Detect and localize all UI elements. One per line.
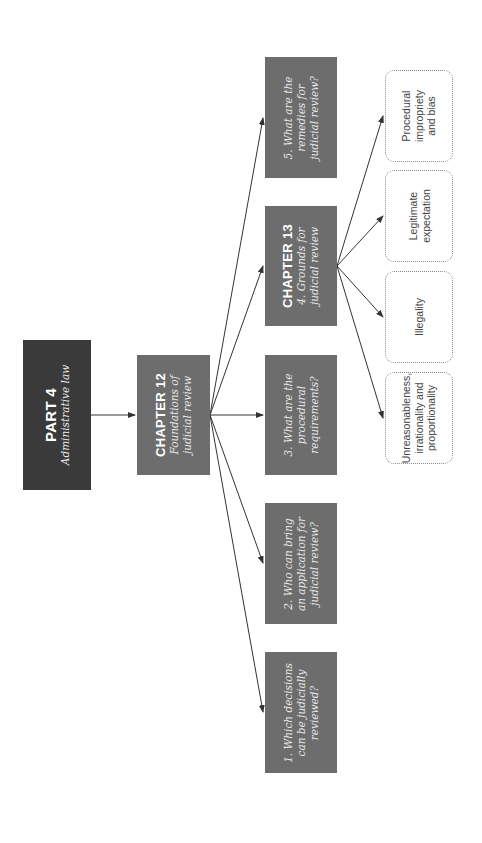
question-5-box: 5. What are the remedies for judicial re… bbox=[265, 57, 337, 178]
ground-line: irrationality and bbox=[413, 372, 426, 464]
chapter-13-subtitle-line: judicial review bbox=[308, 206, 321, 326]
question-line: requirements? bbox=[308, 355, 321, 475]
chapter-12-subtitle-line: judicial review bbox=[181, 355, 194, 475]
question-2-box: 2. Who can bring an application for judi… bbox=[265, 503, 337, 624]
ground-line: Procedural bbox=[400, 70, 413, 162]
chapter-12-box: CHAPTER 12 Foundations of judicial revie… bbox=[137, 355, 210, 475]
question-line: judicial review? bbox=[308, 503, 321, 624]
question-line: an application for bbox=[295, 503, 308, 624]
chapter-13-title: CHAPTER 13 bbox=[281, 206, 295, 326]
ground-illegality-box: Illegality bbox=[385, 271, 453, 363]
question-line: 5. What are the bbox=[282, 57, 295, 178]
question-3-box: 3. What are the procedural requirements? bbox=[265, 355, 337, 475]
ground-unreasonableness-box: Unreasonableness, irrationality and prop… bbox=[385, 372, 453, 464]
question-line: 1. Which decisions bbox=[282, 652, 295, 773]
question-line: 3. What are the bbox=[282, 355, 295, 475]
ground-legitimate-expectation-box: Legitimate expectation bbox=[385, 170, 453, 262]
ground-line: Legitimate bbox=[407, 170, 420, 262]
ground-line: Unreasonableness, bbox=[400, 372, 413, 464]
question-line: remedies for bbox=[295, 57, 308, 178]
part-4-box: PART 4 Administrative law bbox=[23, 340, 91, 490]
ground-line: expectation bbox=[419, 170, 432, 262]
ground-line: Illegality bbox=[413, 271, 426, 363]
part-subtitle: Administrative law bbox=[59, 340, 72, 490]
ground-procedural-impropriety-box: Procedural impropriety and bias bbox=[385, 70, 453, 162]
question-line: 2. Who can bring bbox=[282, 503, 295, 624]
question-line: reviewed? bbox=[308, 652, 321, 773]
question-1-box: 1. Which decisions can be judicially rev… bbox=[265, 652, 337, 773]
chapter-13-box: CHAPTER 13 4. Grounds for judicial revie… bbox=[265, 206, 337, 326]
part-title: PART 4 bbox=[42, 340, 59, 490]
ground-line: proportionality bbox=[425, 372, 438, 464]
chapter-12-title: CHAPTER 12 bbox=[154, 355, 168, 475]
chapter-12-subtitle-line: Foundations of bbox=[168, 355, 181, 475]
question-line: judicial review? bbox=[308, 57, 321, 178]
ground-line: impropriety bbox=[413, 70, 426, 162]
ground-line: and bias bbox=[425, 70, 438, 162]
chapter-13-subtitle-line: 4. Grounds for bbox=[295, 206, 308, 326]
question-line: procedural bbox=[295, 355, 308, 475]
question-line: can be judicially bbox=[295, 652, 308, 773]
